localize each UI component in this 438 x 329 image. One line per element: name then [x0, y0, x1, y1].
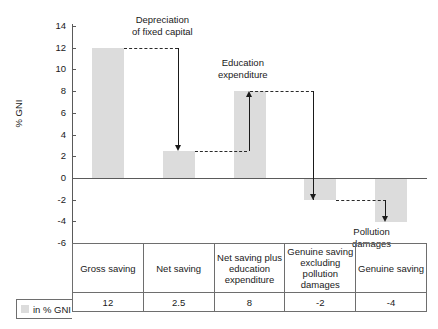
chart-figure: % GNI 14 12 10 8 6 4 2 0 -2 -4 -6 Dep	[0, 0, 438, 329]
annotation-pollution-arrow-head	[382, 216, 388, 222]
annotation-depreciation-dash-bottom	[195, 151, 247, 152]
annotation-depreciation-line2: of fixed capital	[132, 26, 193, 38]
y-tick-label-14: 14	[26, 21, 66, 31]
annotation-education-link-line	[313, 91, 314, 200]
annotation-education-arrow-head	[246, 91, 252, 97]
annotation-education-dash-top	[250, 91, 314, 92]
annotation-pollution-line1: Pollution	[352, 226, 391, 238]
y-tick-label-6: 6	[26, 108, 66, 118]
y-tick-label-2: 2	[26, 151, 66, 161]
table-header-genuine-saving: Genuine saving	[356, 244, 427, 293]
y-tick-2	[72, 156, 76, 157]
annotation-pollution-dash	[336, 200, 386, 201]
y-tick-14	[72, 26, 76, 27]
y-axis-title: % GNI	[13, 84, 24, 144]
table-header-genuine-saving-excl-pollution: Genuine saving excluding pollution damag…	[285, 244, 356, 293]
table-value-row: 12 2.5 8 -2 -4	[73, 293, 427, 312]
table-value-genuine-saving: -4	[356, 293, 427, 312]
annotation-pollution-arrow-line	[385, 200, 386, 216]
table-value-net-saving: 2.5	[143, 293, 214, 312]
annotation-depreciation-line1: Depreciation	[132, 14, 193, 26]
y-tick-label-neg2: -2	[26, 195, 66, 205]
y-tick-0	[72, 178, 76, 179]
y-tick-10	[72, 69, 76, 70]
table-header-net-saving: Net saving	[143, 244, 214, 293]
y-tick-label-10: 10	[26, 64, 66, 74]
plot-area: % GNI 14 12 10 8 6 4 2 0 -2 -4 -6 Dep	[0, 0, 438, 329]
annotation-education-line2: expenditure	[218, 69, 268, 81]
annotation-depreciation-dash-top	[124, 48, 178, 49]
annotation-depreciation-arrow-head	[175, 145, 181, 151]
y-tick-label-neg6: -6	[26, 238, 66, 248]
annotation-education-link-head	[310, 194, 316, 200]
bar-gross-saving	[92, 48, 124, 178]
annotation-depreciation: Depreciation of fixed capital	[132, 14, 193, 37]
annotation-education: Education expenditure	[218, 57, 268, 80]
table-value-net-saving-plus-education: 8	[214, 293, 285, 312]
y-tick-label-neg4: -4	[26, 216, 66, 226]
y-tick-label-8: 8	[26, 86, 66, 96]
bar-net-saving	[163, 151, 195, 178]
table-header-net-saving-plus-education: Net saving plus education expenditure	[214, 244, 285, 293]
data-table: Gross saving Net saving Net saving plus …	[72, 243, 427, 312]
table-header-gross-saving: Gross saving	[73, 244, 144, 293]
y-tick-neg2	[72, 200, 76, 201]
bar-genuine-saving-excl-pollution	[304, 179, 336, 200]
y-tick-4	[72, 135, 76, 136]
table-value-gross-saving: 12	[73, 293, 144, 312]
y-tick-label-12: 12	[26, 43, 66, 53]
bar-net-saving-plus-education	[234, 91, 266, 178]
annotation-education-arrow-line	[249, 97, 250, 151]
y-tick-label-4: 4	[26, 130, 66, 140]
table-header-row: Gross saving Net saving Net saving plus …	[73, 244, 427, 293]
legend-label: in % GNI	[33, 304, 71, 315]
legend: in % GNI	[16, 299, 72, 319]
y-tick-neg4	[72, 221, 76, 222]
annotation-depreciation-arrow-line	[178, 48, 179, 145]
table-value-genuine-saving-excl-pollution: -2	[285, 293, 356, 312]
annotation-education-line1: Education	[218, 57, 268, 69]
y-tick-8	[72, 91, 76, 92]
zero-baseline	[72, 178, 427, 179]
y-tick-12	[72, 48, 76, 49]
legend-swatch-icon	[21, 305, 29, 313]
y-tick-label-0: 0	[26, 173, 66, 183]
y-tick-6	[72, 113, 76, 114]
